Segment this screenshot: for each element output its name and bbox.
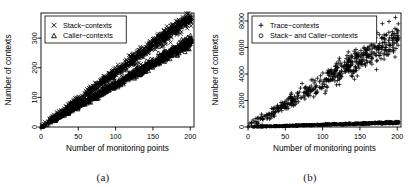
svg-text:0: 0 <box>246 132 250 141</box>
svg-text:Number of contexts: Number of contexts <box>4 35 13 106</box>
svg-text:4000: 4000 <box>237 66 246 82</box>
svg-text:50: 50 <box>281 132 289 141</box>
svg-text:2000: 2000 <box>237 92 246 108</box>
panel-b-caption: (b) <box>207 171 413 183</box>
svg-text:Stack− and Caller−contexts: Stack− and Caller−contexts <box>270 31 358 40</box>
scatter-plot-b: 05010015020002000400060008000Number of m… <box>207 0 413 160</box>
panel-b: 05010015020002000400060008000Number of m… <box>207 0 413 187</box>
svg-text:150: 150 <box>354 132 366 141</box>
svg-text:100: 100 <box>110 132 122 141</box>
svg-text:100: 100 <box>30 91 39 103</box>
svg-text:300: 300 <box>30 32 39 44</box>
svg-text:100: 100 <box>317 132 329 141</box>
svg-text:150: 150 <box>147 132 159 141</box>
svg-text:8000: 8000 <box>237 13 246 29</box>
svg-text:0: 0 <box>30 125 39 129</box>
svg-text:0: 0 <box>237 125 246 129</box>
panel-a: 0501001502000100200300Number of monitori… <box>0 0 206 187</box>
svg-text:50: 50 <box>74 132 82 141</box>
svg-text:200: 200 <box>30 62 39 74</box>
svg-text:200: 200 <box>391 132 403 141</box>
svg-text:Number of monitoring points: Number of monitoring points <box>273 144 376 153</box>
svg-text:Number of contexts: Number of contexts <box>211 35 220 106</box>
svg-text:200: 200 <box>184 132 196 141</box>
svg-text:6000: 6000 <box>237 39 246 55</box>
panel-a-caption: (a) <box>0 171 206 183</box>
svg-text:Stack−contexts: Stack−contexts <box>63 21 112 30</box>
scatter-plot-a: 0501001502000100200300Number of monitori… <box>0 0 206 160</box>
svg-text:Trace−contexts: Trace−contexts <box>270 21 319 30</box>
svg-text:Number of monitoring points: Number of monitoring points <box>66 144 169 153</box>
svg-text:0: 0 <box>39 132 43 141</box>
svg-text:Caller−contexts: Caller−contexts <box>63 31 113 40</box>
figure-two-panel-scatter: 0501001502000100200300Number of monitori… <box>0 0 413 187</box>
